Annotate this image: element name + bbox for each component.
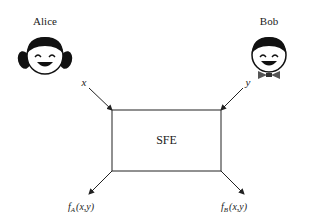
- sfe-label: SFE: [156, 133, 177, 147]
- bob-face-icon: [252, 37, 286, 79]
- sfe-diagram: Alice Bob x y SFE fA(x,y) fB(x,y: [0, 0, 310, 219]
- output-arrow-alice: [89, 171, 112, 194]
- output-alice-label: fA(x,y): [68, 201, 95, 214]
- input-y-label: y: [245, 76, 251, 88]
- alice-label: Alice: [33, 15, 57, 27]
- output-bob-label: fB(x,y): [221, 201, 248, 214]
- input-x-label: x: [81, 76, 87, 88]
- alice-face-icon: [16, 37, 74, 74]
- input-arrow-x: [89, 88, 112, 110]
- output-arrow-bob: [221, 171, 244, 194]
- input-arrow-y: [221, 88, 243, 110]
- bob-label: Bob: [260, 15, 279, 27]
